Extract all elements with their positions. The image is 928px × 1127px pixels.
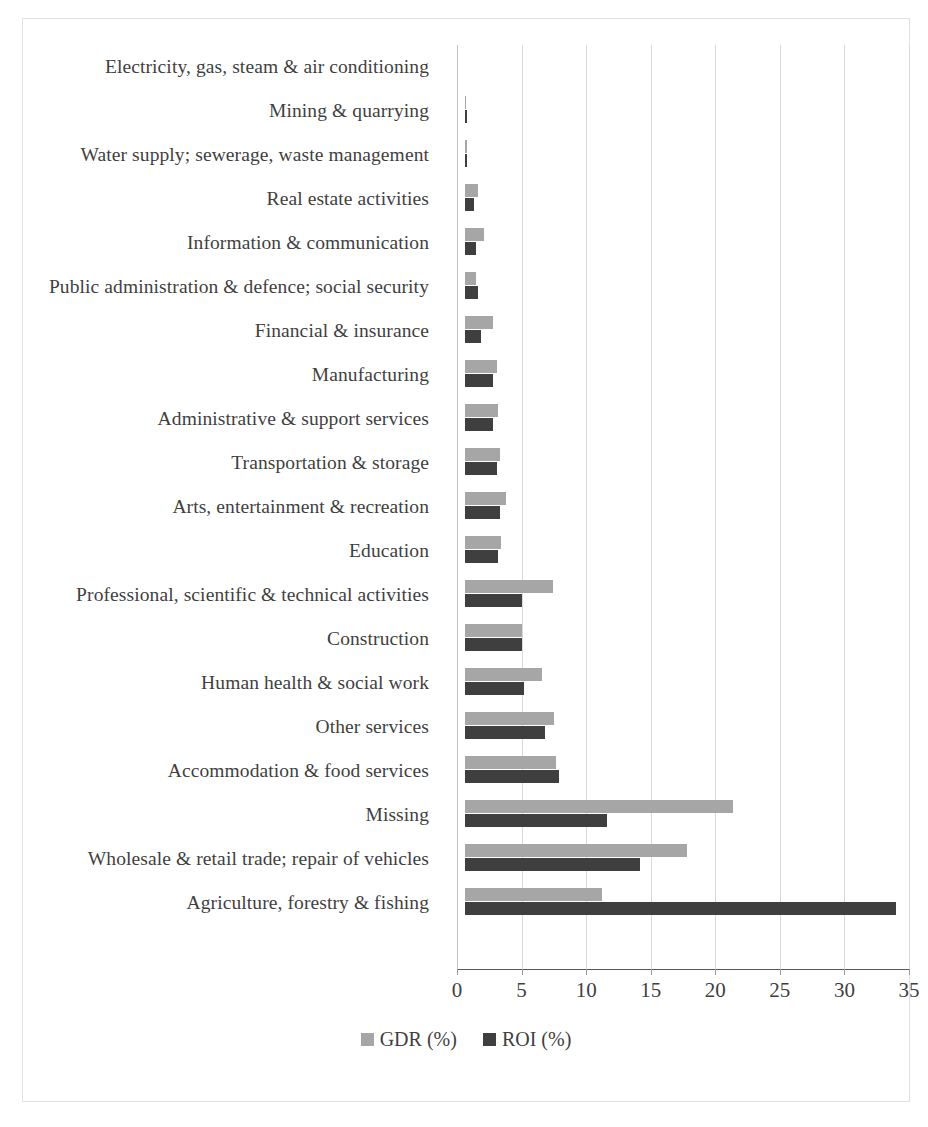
category-label: Manufacturing [23,364,443,386]
x-tick-label: 20 [705,977,726,1003]
bar-gdr [465,756,557,769]
bar-gdr [465,844,687,857]
legend-swatch-icon [361,1033,374,1046]
category-label: Electricity, gas, steam & air conditioni… [23,56,443,78]
bar-gdr [465,448,500,461]
category-label: Mining & quarrying [23,100,443,122]
bar-group [443,89,909,133]
bar-row: Administrative & support services [23,397,909,441]
bar-gdr [465,404,499,417]
category-label: Professional, scientific & technical act… [23,584,443,606]
category-label: Accommodation & food services [23,760,443,782]
bar-gdr [465,184,478,197]
bar-gdr [465,668,542,681]
category-label: Information & communication [23,232,443,254]
legend-item[interactable]: ROI (%) [483,1027,571,1051]
bar-roi [465,374,493,387]
category-label: Human health & social work [23,672,443,694]
x-tick-mark-5 [522,969,523,975]
category-label: Water supply; sewerage, waste management [23,144,443,166]
bar-roi [465,418,493,431]
bar-row: Real estate activities [23,177,909,221]
bar-gdr [465,888,602,901]
category-label: Administrative & support services [23,408,443,430]
x-tick-mark-30 [844,969,845,975]
bar-row: Education [23,529,909,573]
category-label: Other services [23,716,443,738]
bar-row: Electricity, gas, steam & air conditioni… [23,45,909,89]
legend-swatch-icon [483,1033,496,1046]
bar-roi [465,770,559,783]
bar-group [443,881,909,925]
bar-row: Human health & social work [23,661,909,705]
bar-group [443,133,909,177]
bar-rows-container: Electricity, gas, steam & air conditioni… [23,45,909,969]
bar-gdr [465,580,553,593]
bar-row: Financial & insurance [23,309,909,353]
x-tick-mark-10 [586,969,587,975]
bar-gdr [465,140,468,153]
bar-roi [465,506,500,519]
legend-label: ROI (%) [502,1027,571,1051]
bar-group [443,617,909,661]
bar-gdr [465,316,493,329]
category-label: Real estate activities [23,188,443,210]
bar-row: Construction [23,617,909,661]
x-tick-label: 0 [452,977,463,1003]
bar-group [443,749,909,793]
bar-group [443,441,909,485]
bar-roi [465,462,497,475]
bar-row: Accommodation & food services [23,749,909,793]
bar-gdr [465,360,497,373]
category-label: Construction [23,628,443,650]
bar-roi [465,638,522,651]
x-axis-tick-labels: 05101520253035 [457,977,909,1011]
bar-gdr [465,492,506,505]
x-tick-label: 30 [834,977,855,1003]
x-tick-mark-0 [457,969,458,975]
bar-gdr [465,712,554,725]
bar-gdr [465,800,734,813]
category-label: Wholesale & retail trade; repair of vehi… [23,848,443,870]
bar-roi [465,242,477,255]
x-tick-mark-35 [909,969,910,975]
category-label: Agriculture, forestry & fishing [23,892,443,914]
bar-roi [465,110,468,123]
bar-roi [465,198,474,211]
x-axis-line [457,969,909,970]
x-tick-label: 10 [576,977,597,1003]
bar-group [443,265,909,309]
bar-roi [465,726,545,739]
bar-group [443,309,909,353]
bar-row: Missing [23,793,909,837]
bar-row: Information & communication [23,221,909,265]
bar-row: Manufacturing [23,353,909,397]
bar-group [443,793,909,837]
x-tick-mark-15 [651,969,652,975]
x-tick-mark-25 [780,969,781,975]
x-tick-label: 35 [899,977,920,1003]
bar-row: Professional, scientific & technical act… [23,573,909,617]
bar-group [443,177,909,221]
bar-roi [465,902,896,915]
bar-row: Arts, entertainment & recreation [23,485,909,529]
bar-gdr [465,272,477,285]
bar-row: Water supply; sewerage, waste management [23,133,909,177]
category-label: Financial & insurance [23,320,443,342]
bar-gdr [465,624,522,637]
x-tick-label: 5 [516,977,527,1003]
legend-label: GDR (%) [380,1027,457,1051]
x-tick-label: 25 [769,977,790,1003]
bar-row: Public administration & defence; social … [23,265,909,309]
bar-roi [465,682,524,695]
x-tick-mark-20 [715,969,716,975]
bar-gdr [465,228,484,241]
bar-group [443,397,909,441]
category-label: Missing [23,804,443,826]
legend-item[interactable]: GDR (%) [361,1027,457,1051]
bar-group [443,529,909,573]
bar-roi [465,858,641,871]
bar-row: Other services [23,705,909,749]
bar-group [443,837,909,881]
bar-row: Mining & quarrying [23,89,909,133]
